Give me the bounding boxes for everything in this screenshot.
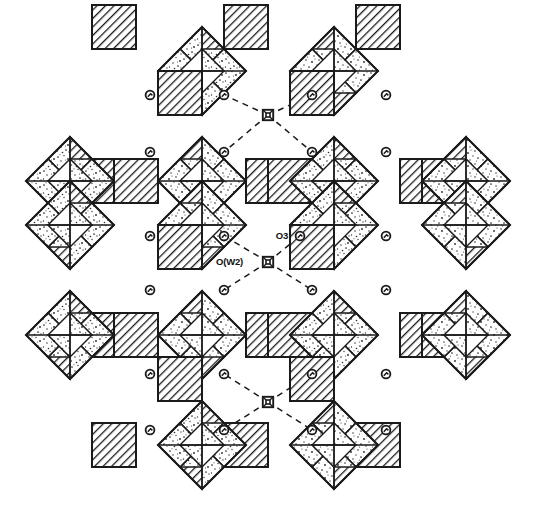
oxygen-atom (146, 91, 155, 100)
oxygen-atom (146, 370, 155, 379)
oxygen-atom (382, 286, 391, 295)
structure-figure-canvas: O(W2) O3 (0, 0, 536, 511)
hatched-bridge-h-1 (114, 159, 158, 203)
oxygen-atom (146, 286, 155, 295)
water-oxygen-inner (266, 260, 270, 264)
oxygen-atom (146, 148, 155, 157)
oxygen-atom (382, 148, 391, 157)
hatched-bridge-v-top-0 (158, 71, 202, 115)
oxygen-atom (382, 91, 391, 100)
label-ow2: O(W2) (216, 256, 243, 267)
oxygen-atom (220, 91, 229, 100)
oxygen-atom (220, 232, 229, 241)
oxygen-atom (308, 91, 317, 100)
water-oxygen-site (263, 110, 273, 120)
hatched-bridge-v-top-3 (290, 225, 334, 269)
oxygen-atom (382, 370, 391, 379)
water-oxygen-site (263, 397, 273, 407)
hatched-bridge-v-top-2 (158, 225, 202, 269)
hatched-bridge-h-7 (114, 313, 158, 357)
oxygen-atom (308, 148, 317, 157)
oxygen-atom (296, 232, 305, 241)
oxygen-atom (382, 232, 391, 241)
terminal-hatched-square-3 (92, 423, 136, 467)
oxygen-atom (308, 426, 317, 435)
oxygen-atom (146, 426, 155, 435)
terminal-hatched-square-0 (92, 5, 136, 49)
oxygen-atom (146, 232, 155, 241)
oxygen-atom (220, 286, 229, 295)
oxygen-atom (308, 286, 317, 295)
crystal-structure-svg: O(W2) O3 (0, 0, 536, 511)
water-oxygen-site (263, 257, 273, 267)
oxygen-atom (220, 426, 229, 435)
hatched-bridge-v-top-4 (158, 357, 202, 401)
oxygen-atom (220, 370, 229, 379)
terminal-hatched-square-1 (224, 5, 268, 49)
label-o3: O3 (276, 230, 288, 241)
oxygen-atom (308, 370, 317, 379)
water-oxygen-inner (266, 400, 270, 404)
water-oxygen-inner (266, 113, 270, 117)
terminal-hatched-square-2 (356, 5, 400, 49)
oxygen-atom (382, 426, 391, 435)
oxygen-atom (220, 148, 229, 157)
